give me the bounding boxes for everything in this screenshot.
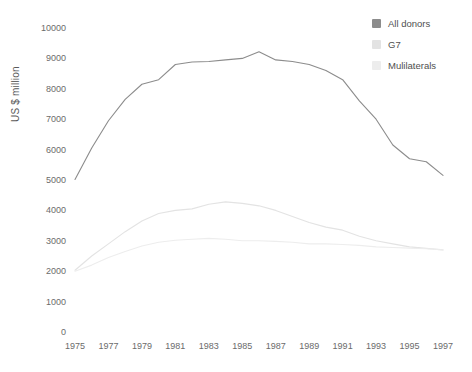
series-line — [75, 202, 443, 270]
legend-swatch-icon — [372, 61, 381, 70]
legend-label: G7 — [388, 39, 401, 50]
legend-item[interactable]: G7 — [372, 35, 472, 53]
legend-label: Mulilaterals — [388, 60, 436, 71]
legend-swatch-icon — [372, 40, 381, 49]
legend-item[interactable]: Mulilaterals — [372, 56, 472, 74]
legend-item[interactable]: All donors — [372, 14, 472, 32]
legend-label: All donors — [388, 18, 430, 29]
line-chart: US $ million 100009000800070006000500040… — [0, 0, 472, 372]
legend-swatch-icon — [372, 19, 381, 28]
chart-legend: All donorsG7Mulilaterals — [372, 14, 472, 77]
